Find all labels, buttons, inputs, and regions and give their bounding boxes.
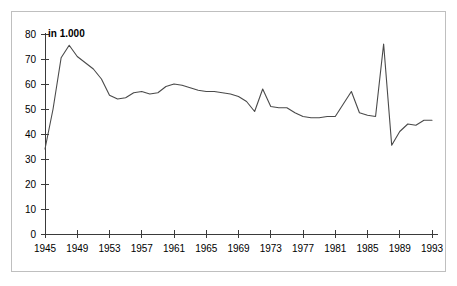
unit-label: in 1.000 [48, 28, 85, 39]
y-tick-label: 30 [25, 154, 37, 165]
y-axis: 01020304050607080 [25, 29, 49, 240]
y-tick-label: 10 [25, 204, 37, 215]
y-tick-label: 0 [30, 229, 36, 240]
series-line-wert [45, 44, 432, 149]
chart-frame: 01020304050607080 1945194919531957196119… [11, 11, 446, 272]
x-axis: 1945194919531957196119651969197319771981… [34, 230, 444, 254]
y-tick-label: 40 [25, 129, 37, 140]
x-tick-label: 1961 [163, 243, 186, 254]
x-tick-label: 1945 [34, 243, 57, 254]
x-tick-label: 1985 [356, 243, 379, 254]
x-tick-label: 1973 [260, 243, 283, 254]
line-chart: 01020304050607080 1945194919531957196119… [12, 12, 445, 271]
x-tick-label: 1981 [324, 243, 347, 254]
y-tick-label: 50 [25, 104, 37, 115]
x-tick-label: 1957 [131, 243, 154, 254]
x-tick-label: 1993 [421, 243, 444, 254]
x-tick-label: 1969 [227, 243, 250, 254]
x-tick-label: 1989 [389, 243, 412, 254]
x-tick-label: 1977 [292, 243, 315, 254]
y-tick-label: 60 [25, 79, 37, 90]
x-tick-label: 1949 [66, 243, 89, 254]
y-tick-label: 70 [25, 54, 37, 65]
y-tick-label: 80 [25, 29, 37, 40]
x-tick-label: 1965 [195, 243, 218, 254]
y-tick-label: 20 [25, 179, 37, 190]
x-tick-label: 1953 [98, 243, 121, 254]
data-series-group [45, 44, 432, 149]
